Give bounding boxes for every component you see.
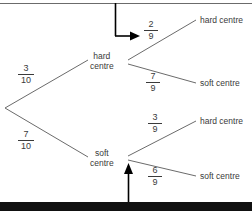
node-soft-centre-line1: soft bbox=[95, 148, 109, 158]
fraction-numerator: 3 bbox=[18, 64, 34, 74]
edge-hard-to-soft bbox=[128, 64, 196, 83]
leaf-hard-soft: soft centre bbox=[200, 78, 240, 88]
top-pointer-arrowhead bbox=[130, 32, 140, 41]
probability-7-10: 7 10 bbox=[18, 130, 34, 151]
edge-soft-to-soft bbox=[128, 160, 196, 176]
fraction-denominator: 10 bbox=[18, 140, 34, 151]
probability-7-9: 7 9 bbox=[146, 72, 160, 93]
edge-hard-to-hard bbox=[128, 20, 196, 60]
edge-soft-to-hard bbox=[128, 121, 196, 156]
node-hard-centre-line2: centre bbox=[90, 61, 114, 71]
node-soft-centre-line2: centre bbox=[90, 158, 114, 168]
bottom-bar bbox=[0, 202, 252, 211]
probability-6-9: 6 9 bbox=[148, 166, 162, 187]
probability-2-9: 2 9 bbox=[144, 20, 158, 41]
fraction-numerator: 7 bbox=[146, 72, 160, 82]
leaf-hard-hard: hard centre bbox=[200, 15, 243, 25]
probability-3-9: 3 9 bbox=[148, 113, 162, 134]
node-hard-centre-line1: hard bbox=[93, 51, 110, 61]
fraction-denominator: 9 bbox=[146, 82, 160, 93]
fraction-numerator: 3 bbox=[148, 113, 162, 123]
probability-3-10: 3 10 bbox=[18, 64, 34, 85]
fraction-numerator: 6 bbox=[148, 166, 162, 176]
fraction-denominator: 9 bbox=[148, 176, 162, 187]
fraction-denominator: 9 bbox=[144, 30, 158, 41]
node-hard-centre: hard centre bbox=[90, 51, 114, 71]
bottom-pointer-arrowhead bbox=[124, 163, 133, 174]
fraction-numerator: 2 bbox=[144, 20, 158, 30]
probability-tree-diagram: 3 10 7 10 2 9 7 9 3 9 6 9 hard centre so… bbox=[0, 0, 252, 211]
node-soft-centre: soft centre bbox=[90, 148, 114, 168]
leaf-soft-hard: hard centre bbox=[200, 116, 243, 126]
fraction-denominator: 9 bbox=[148, 123, 162, 134]
fraction-denominator: 10 bbox=[18, 74, 34, 85]
leaf-soft-soft: soft centre bbox=[200, 171, 240, 181]
fraction-numerator: 7 bbox=[18, 130, 34, 140]
